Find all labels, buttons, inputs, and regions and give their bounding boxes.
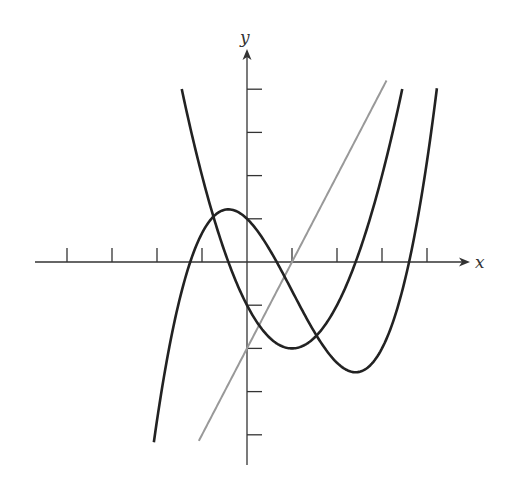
cubic-series xyxy=(154,88,437,442)
y-axis-label: y xyxy=(239,27,250,47)
function-graph: x y xyxy=(0,0,514,492)
x-axis-label: x xyxy=(475,252,485,272)
parabola-series xyxy=(182,89,403,348)
